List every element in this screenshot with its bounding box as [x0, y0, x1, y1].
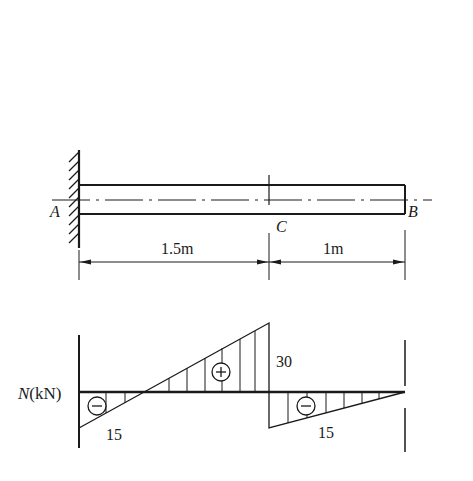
dimension-lines — [79, 230, 405, 280]
dimension-cb: 1m — [323, 240, 344, 257]
fixed-support — [69, 150, 79, 248]
beam-body — [52, 175, 432, 214]
label-point-c: C — [276, 218, 287, 235]
label-point-b: B — [408, 203, 418, 220]
value-label-15-left: 15 — [106, 426, 122, 443]
sign-positive — [212, 363, 230, 381]
sign-negative-left — [88, 397, 106, 415]
dimension-ac: 1.5m — [161, 240, 194, 257]
label-point-a: A — [49, 203, 60, 220]
beam-diagram-canvas: A B C 1.5m 1m — [0, 0, 473, 481]
value-label-15-right: 15 — [318, 424, 334, 441]
axis-label: N(kN) — [17, 384, 61, 403]
value-label-30: 30 — [276, 353, 292, 370]
axial-force-diagram — [79, 323, 405, 452]
sign-negative-right — [297, 397, 315, 415]
